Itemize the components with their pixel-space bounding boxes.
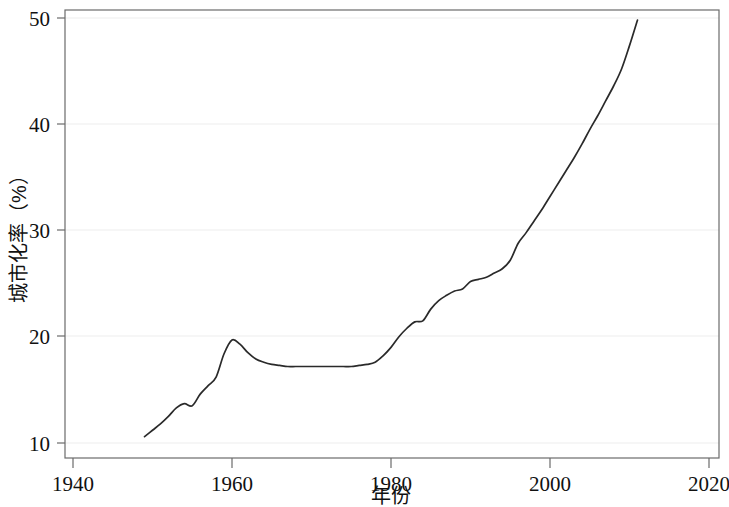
urbanization-line-chart: 50 40 30 20 10 1940 1960 1980 2000 2020 …: [0, 0, 729, 507]
y-tick-label-30: 30: [29, 219, 50, 243]
y-tick-label-10: 10: [29, 432, 50, 456]
x-tick-label-1960: 1960: [211, 472, 253, 496]
y-tick-label-20: 20: [29, 325, 50, 349]
x-axis-ticks: [73, 458, 709, 468]
y-axis-title: 城市化率（%）: [8, 165, 30, 303]
plot-background: [65, 10, 719, 458]
x-tick-label-2020: 2020: [688, 472, 729, 496]
y-tick-label-50: 50: [29, 7, 50, 31]
y-tick-label-40: 40: [29, 113, 50, 137]
x-tick-label-2000: 2000: [529, 472, 571, 496]
x-tick-label-1940: 1940: [52, 472, 94, 496]
chart-figure: 50 40 30 20 10 1940 1960 1980 2000 2020 …: [0, 0, 729, 507]
y-axis-ticks: [57, 18, 65, 443]
x-axis-title: 年份: [371, 485, 411, 507]
y-tick-labels: 50 40 30 20 10: [29, 7, 50, 456]
